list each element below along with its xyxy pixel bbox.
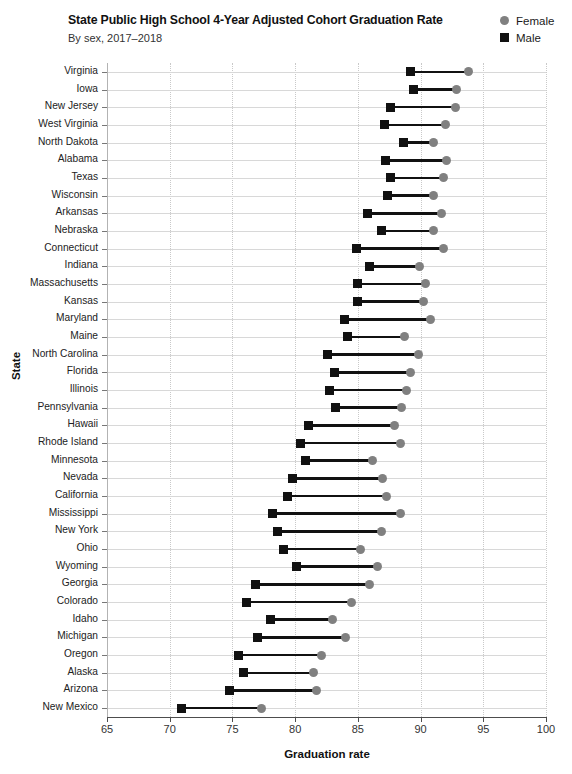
gridline-horizontal — [107, 690, 546, 691]
gridline-horizontal — [107, 160, 546, 161]
y-axis-category-label: North Dakota — [0, 136, 98, 147]
dumbbell-connector — [309, 424, 394, 427]
gridline-horizontal — [107, 708, 546, 709]
x-tick-mark — [107, 717, 108, 722]
data-point-female — [390, 421, 399, 430]
y-axis-category-label: New York — [0, 524, 98, 535]
y-tick-mark — [102, 337, 107, 338]
y-tick-mark — [102, 567, 107, 568]
dumbbell-connector — [244, 672, 314, 675]
x-tick-label: 100 — [537, 723, 555, 735]
data-point-male — [383, 191, 392, 200]
y-axis-category-label: Minnesota — [0, 454, 98, 465]
dumbbell-connector — [384, 124, 445, 127]
dumbbell-connector — [357, 247, 444, 250]
x-tick-label: 70 — [164, 723, 176, 735]
data-point-male — [323, 350, 332, 359]
x-tick-label: 80 — [289, 723, 301, 735]
gridline-horizontal — [107, 249, 546, 250]
y-axis-category-label: Michigan — [0, 630, 98, 641]
data-point-female — [328, 615, 337, 624]
y-axis-category-label: New Jersey — [0, 100, 98, 111]
x-tick-label: 85 — [352, 723, 364, 735]
y-tick-mark — [102, 266, 107, 267]
y-axis-category-label: Massachusetts — [0, 277, 98, 288]
data-point-male — [409, 85, 418, 94]
y-axis-category-label: Indiana — [0, 259, 98, 270]
y-tick-mark — [102, 478, 107, 479]
data-point-male — [377, 226, 386, 235]
data-point-male — [301, 456, 310, 465]
y-axis-category-label: Nevada — [0, 471, 98, 482]
dumbbell-connector — [413, 88, 457, 91]
data-point-female — [429, 226, 438, 235]
dumbbell-connector — [300, 442, 400, 445]
y-axis-category-label: Alaska — [0, 666, 98, 677]
dumbbell-connector — [358, 300, 423, 303]
y-tick-mark — [102, 531, 107, 532]
data-point-male — [399, 138, 408, 147]
y-axis-category-label: Alabama — [0, 153, 98, 164]
y-axis-category-label: Colorado — [0, 595, 98, 606]
plot-area — [107, 63, 546, 717]
data-point-male — [340, 315, 349, 324]
gridline-vertical — [546, 63, 547, 717]
y-tick-mark — [102, 425, 107, 426]
data-point-female — [442, 156, 451, 165]
dumbbell-connector — [382, 230, 433, 233]
y-tick-mark — [102, 637, 107, 638]
data-point-female — [439, 244, 448, 253]
y-tick-mark — [102, 249, 107, 250]
data-point-male — [330, 368, 339, 377]
data-point-female — [400, 332, 409, 341]
data-point-male — [242, 598, 251, 607]
data-point-male — [251, 580, 260, 589]
y-axis-category-label: Nebraska — [0, 224, 98, 235]
y-tick-mark — [102, 72, 107, 73]
dumbbell-connector — [390, 106, 455, 109]
data-point-male — [380, 120, 389, 129]
gridline-horizontal — [107, 302, 546, 303]
data-point-female — [368, 456, 377, 465]
data-point-male — [234, 651, 243, 660]
y-tick-mark — [102, 213, 107, 214]
data-point-female — [397, 403, 406, 412]
dumbbell-connector — [288, 495, 387, 498]
y-tick-mark — [102, 690, 107, 691]
y-axis-category-label: Pennsylvania — [0, 401, 98, 412]
y-axis-category-label: New Mexico — [0, 701, 98, 712]
dumbbell-connector — [284, 548, 361, 551]
data-point-male — [325, 386, 334, 395]
y-axis-category-label: West Virginia — [0, 118, 98, 129]
data-point-female — [373, 562, 382, 571]
data-point-male — [279, 545, 288, 554]
gridline-horizontal — [107, 655, 546, 656]
y-tick-mark — [102, 302, 107, 303]
data-point-female — [377, 527, 386, 536]
y-axis-category-label: Ohio — [0, 542, 98, 553]
y-tick-mark — [102, 673, 107, 674]
y-tick-mark — [102, 143, 107, 144]
y-tick-mark — [102, 90, 107, 91]
data-point-female — [378, 474, 387, 483]
y-tick-mark — [102, 408, 107, 409]
y-tick-mark — [102, 284, 107, 285]
y-axis-category-label: Wisconsin — [0, 189, 98, 200]
data-point-female — [406, 368, 415, 377]
dumbbell-connector — [181, 707, 261, 710]
y-axis-category-label: California — [0, 489, 98, 500]
chart-root: State Public High School 4-Year Adjusted… — [0, 0, 572, 774]
y-tick-mark — [102, 196, 107, 197]
data-point-female — [451, 103, 460, 112]
y-tick-mark — [102, 178, 107, 179]
x-tick-label: 65 — [101, 723, 113, 735]
y-tick-mark — [102, 461, 107, 462]
data-point-female — [341, 633, 350, 642]
y-tick-mark — [102, 602, 107, 603]
dumbbell-connector — [358, 283, 426, 286]
data-point-female — [396, 439, 405, 448]
y-tick-mark — [102, 319, 107, 320]
data-point-male — [283, 492, 292, 501]
data-point-female — [437, 209, 446, 218]
data-point-male — [381, 156, 390, 165]
